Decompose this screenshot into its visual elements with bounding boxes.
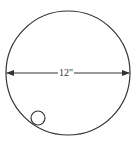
diameter-label: 12" [58,68,74,78]
small-circle [31,111,45,125]
